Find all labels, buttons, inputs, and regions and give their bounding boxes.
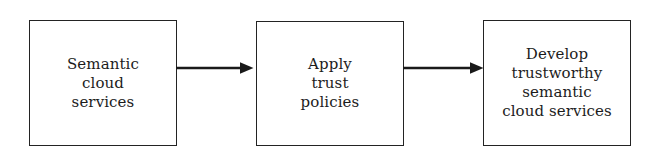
- node-text-line: semantic: [522, 83, 591, 102]
- process-node-semantic-cloud-services[interactable]: Semantic cloud services: [29, 20, 177, 146]
- process-node-develop-trustworthy-semantic-cloud-services[interactable]: Develop trustworthy semantic cloud servi…: [483, 20, 631, 146]
- arrow-apply-to-develop-icon: [403, 61, 484, 75]
- node-text-line: services: [72, 93, 135, 112]
- node-text-line: Semantic: [67, 55, 139, 74]
- arrow-semantic-to-apply-icon: [176, 61, 254, 75]
- node-text-line: cloud: [82, 74, 124, 93]
- node-text-line: cloud services: [502, 102, 612, 121]
- node-text-line: policies: [301, 93, 360, 112]
- process-node-apply-trust-policies[interactable]: Apply trust policies: [256, 21, 404, 146]
- node-text-line: Develop: [526, 45, 588, 64]
- node-text-line: trust: [311, 74, 348, 93]
- node-text-line: trustworthy: [512, 64, 603, 83]
- node-text-line: Apply: [308, 55, 352, 74]
- diagram-canvas: Semantic cloud services Apply trust poli…: [0, 0, 661, 164]
